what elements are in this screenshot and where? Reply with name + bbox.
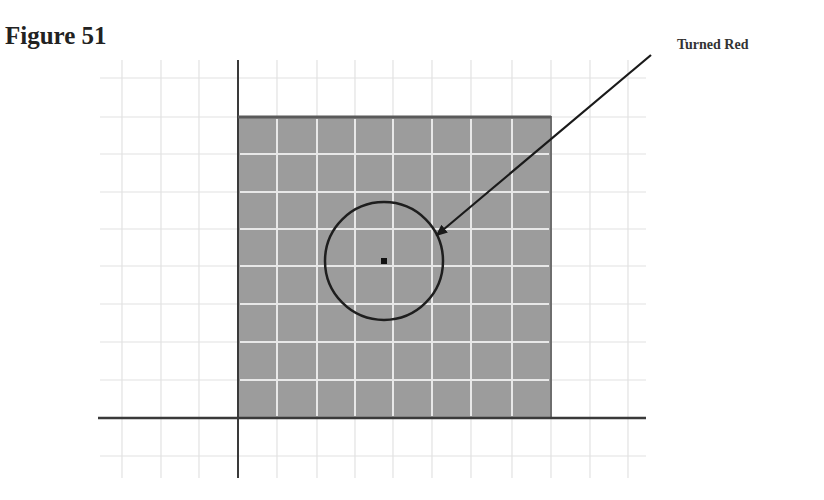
diagram-canvas bbox=[0, 0, 824, 500]
shaded-region bbox=[238, 117, 551, 418]
center-point bbox=[381, 258, 387, 264]
